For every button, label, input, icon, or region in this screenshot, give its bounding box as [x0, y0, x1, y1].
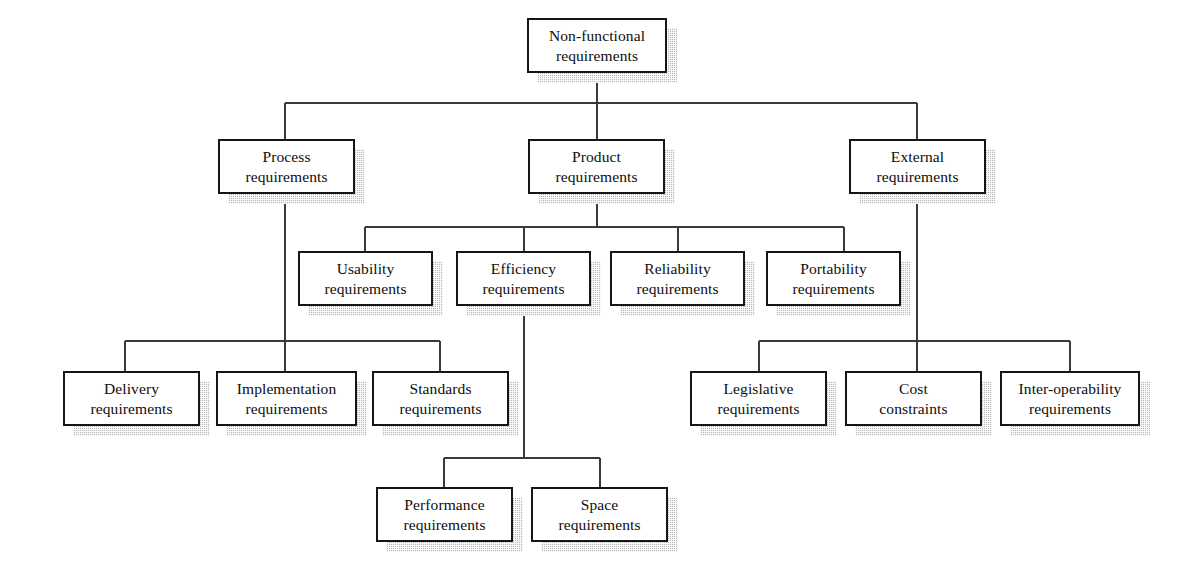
node-label: Implementation requirements — [232, 379, 342, 419]
node-usability-requirements[interactable]: Usability requirements — [298, 251, 433, 306]
node-standards-requirements[interactable]: Standards requirements — [372, 371, 509, 426]
node-product-requirements[interactable]: Product requirements — [528, 139, 665, 194]
node-label: Delivery requirements — [85, 379, 177, 419]
node-label: External requirements — [871, 147, 963, 187]
node-label: Reliability requirements — [631, 259, 723, 299]
node-process-requirements[interactable]: Process requirements — [218, 139, 355, 194]
node-label: Inter-operability requirements — [1014, 379, 1127, 419]
node-label: Cost constraints — [874, 379, 952, 419]
node-implementation-requirements[interactable]: Implementation requirements — [216, 371, 357, 426]
node-label: Portability requirements — [787, 259, 879, 299]
node-non-functional-requirements[interactable]: Non-functional requirements — [527, 18, 667, 73]
node-label: Performance requirements — [398, 495, 490, 535]
node-delivery-requirements[interactable]: Delivery requirements — [63, 371, 200, 426]
node-label: Efficiency requirements — [477, 259, 569, 299]
node-label: Space requirements — [553, 495, 645, 535]
node-efficiency-requirements[interactable]: Efficiency requirements — [456, 251, 591, 306]
node-performance-requirements[interactable]: Performance requirements — [376, 487, 513, 542]
node-external-requirements[interactable]: External requirements — [849, 139, 986, 194]
node-label: Legislative requirements — [712, 379, 804, 419]
node-space-requirements[interactable]: Space requirements — [531, 487, 668, 542]
node-label: Usability requirements — [319, 259, 411, 299]
node-legislative-requirements[interactable]: Legislative requirements — [690, 371, 827, 426]
node-label: Non-functional requirements — [544, 26, 650, 66]
node-label: Standards requirements — [394, 379, 486, 419]
node-inter-operability-requirements[interactable]: Inter-operability requirements — [1000, 371, 1140, 426]
node-label: Process requirements — [240, 147, 332, 187]
node-reliability-requirements[interactable]: Reliability requirements — [610, 251, 745, 306]
node-label: Product requirements — [550, 147, 642, 187]
nonfunctional-requirements-diagram: Non-functional requirements Process requ… — [0, 0, 1181, 584]
node-cost-constraints[interactable]: Cost constraints — [845, 371, 982, 426]
node-portability-requirements[interactable]: Portability requirements — [766, 251, 901, 306]
